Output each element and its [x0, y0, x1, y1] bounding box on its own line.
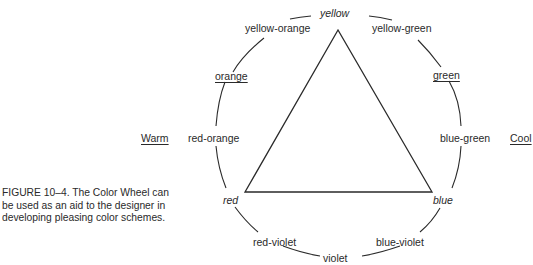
- label-violet: violet: [323, 252, 348, 264]
- arc-orange-to-red-orange: [216, 82, 225, 126]
- label-blue-green: blue-green: [440, 132, 490, 144]
- arc-blue-violet-to-blue: [420, 208, 440, 232]
- arc-red-orange-to-red: [216, 146, 226, 188]
- label-yellow: yellow: [320, 7, 349, 19]
- arc-green-to-yellow-green: [418, 40, 441, 67]
- primary-triangle: [245, 30, 432, 192]
- label-green: green: [433, 69, 460, 81]
- arc-yellow-left: [290, 16, 311, 19]
- label-cool: Cool: [510, 132, 532, 144]
- label-orange: orange: [215, 70, 248, 82]
- arc-blue-green-to-green: [449, 81, 461, 126]
- label-red: red: [223, 194, 238, 206]
- label-red-violet: red-violet: [253, 236, 296, 248]
- label-blue: blue: [433, 194, 453, 206]
- label-warm: Warm: [141, 132, 169, 144]
- arc-red-to-red-violet: [235, 207, 258, 232]
- label-yellow-orange: yellow-orange: [245, 22, 310, 34]
- arc-yellow-right: [369, 16, 392, 20]
- label-blue-violet: blue-violet: [376, 236, 424, 248]
- figure-caption: FIGURE 10–4. The Color Wheel can be used…: [2, 187, 172, 225]
- arc-yellow-orange-to-orange: [233, 38, 264, 72]
- label-red-orange: red-orange: [188, 132, 239, 144]
- arc-blue-to-blue-green: [452, 146, 461, 188]
- label-yellow-green: yellow-green: [372, 22, 432, 34]
